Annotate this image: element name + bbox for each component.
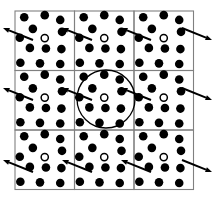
filled-atom [36, 178, 45, 187]
filled-atom [75, 152, 84, 161]
filled-atom [161, 163, 170, 172]
open-atom [41, 34, 48, 41]
filled-atom [100, 11, 109, 20]
filled-atom [159, 70, 168, 79]
open-atom [101, 153, 108, 160]
filled-atom [85, 44, 94, 53]
filled-atom [148, 84, 157, 93]
filled-atom [76, 177, 85, 186]
lattice-canvas [0, 0, 214, 201]
open-atom [160, 153, 167, 160]
filled-atom [76, 118, 85, 127]
filled-atom [176, 45, 185, 54]
filled-atom [145, 103, 154, 112]
open-atom [41, 94, 48, 101]
filled-atom [36, 59, 45, 68]
filled-atom [135, 58, 144, 67]
filled-atom [88, 25, 97, 34]
filled-atom [115, 135, 124, 144]
filled-atom [85, 103, 94, 112]
filled-atom [159, 130, 168, 139]
filled-atom [117, 164, 126, 173]
filled-atom [40, 70, 49, 79]
filled-atom [176, 164, 185, 173]
filled-atom [117, 104, 126, 113]
filled-atom [20, 132, 29, 141]
filled-atom [145, 44, 154, 53]
filled-atom [135, 118, 144, 127]
filled-atom [58, 147, 67, 156]
filled-atom [139, 72, 148, 81]
filled-atom [139, 132, 148, 141]
filled-atom [56, 60, 65, 69]
filled-atom [56, 135, 65, 144]
filled-atom [56, 75, 65, 84]
filled-atom [56, 179, 65, 188]
filled-atom [95, 178, 104, 187]
filled-atom [155, 119, 164, 128]
filled-atom [29, 25, 38, 34]
filled-atom [115, 75, 124, 84]
filled-atom [29, 84, 38, 93]
filled-atom [155, 59, 164, 68]
filled-atom [175, 119, 184, 128]
open-atom [160, 34, 167, 41]
open-atom [101, 34, 108, 41]
filled-atom [101, 104, 110, 113]
filled-atom [16, 58, 25, 67]
filled-atom [175, 135, 184, 144]
filled-atom [57, 45, 66, 54]
filled-atom [135, 177, 144, 186]
open-atom [41, 153, 48, 160]
filled-atom [56, 119, 65, 128]
filled-atom [57, 164, 66, 173]
filled-atom [76, 58, 85, 67]
filled-atom [79, 13, 88, 22]
filled-atom [175, 60, 184, 69]
filled-atom [117, 147, 126, 156]
filled-atom [148, 144, 157, 153]
filled-atom [56, 16, 65, 25]
filled-atom [101, 44, 110, 53]
filled-atom [159, 11, 168, 20]
filled-atom [176, 104, 185, 113]
filled-atom [42, 44, 51, 53]
filled-atom [26, 44, 35, 53]
open-atom [101, 94, 108, 101]
filled-atom [175, 75, 184, 84]
filled-atom [115, 179, 124, 188]
filled-atom [40, 11, 49, 20]
filled-atom [88, 144, 97, 153]
filled-atom [29, 144, 38, 153]
filled-atom [161, 44, 170, 53]
filled-atom [100, 70, 109, 79]
filled-atom [139, 13, 148, 22]
filled-atom [42, 163, 51, 172]
filled-atom [101, 163, 110, 172]
filled-atom [40, 130, 49, 139]
filled-atom [16, 118, 25, 127]
filled-atom [148, 25, 157, 34]
filled-atom [20, 72, 29, 81]
filled-atom [42, 104, 51, 113]
filled-atom [115, 60, 124, 69]
filled-atom [134, 152, 143, 161]
filled-atom [155, 178, 164, 187]
filled-atom [117, 45, 126, 54]
filled-atom [26, 103, 35, 112]
filled-atom [175, 16, 184, 25]
filled-atom [16, 177, 25, 186]
filled-atom [115, 16, 124, 25]
lattice-figure [0, 0, 214, 201]
open-atom [160, 94, 167, 101]
filled-atom [15, 152, 24, 161]
filled-atom [36, 119, 45, 128]
filled-atom [95, 59, 104, 68]
filled-atom [175, 179, 184, 188]
filled-atom [79, 132, 88, 141]
filled-atom [161, 104, 170, 113]
filled-atom [88, 84, 97, 93]
filled-atom [177, 147, 186, 156]
filled-atom [57, 104, 66, 113]
filled-atom [20, 13, 29, 22]
